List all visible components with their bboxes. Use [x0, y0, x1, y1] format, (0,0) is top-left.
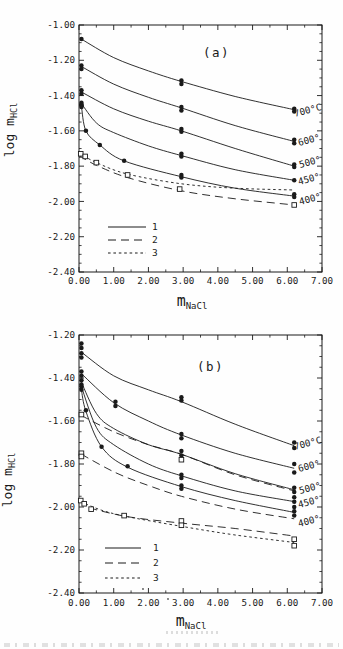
y-tick-label: -2.20 — [47, 544, 75, 555]
data-point — [292, 178, 297, 183]
open-square-point — [177, 187, 182, 192]
axis-frame — [79, 25, 322, 272]
y-tick-label: -1.20 — [47, 54, 75, 65]
legend-label: 2 — [153, 557, 159, 568]
y-tick-label: -2.40 — [47, 266, 75, 277]
x-tick-label: 4.00 — [207, 275, 229, 286]
open-square-point — [122, 513, 127, 518]
x-tick-label: 3.00 — [172, 275, 194, 286]
data-point — [179, 108, 184, 113]
data-point — [179, 476, 184, 481]
data-point — [179, 432, 184, 437]
y-tick-label: -1.20 — [47, 329, 75, 340]
open-square-point — [89, 507, 94, 512]
chart-b-plot: 0.001.002.003.004.005.006.007.00-1.20-1.… — [0, 320, 343, 649]
data-point — [79, 105, 84, 110]
data-point — [292, 141, 297, 146]
open-square-point — [179, 523, 184, 528]
data-point — [79, 346, 84, 351]
panel-label: (a) — [203, 45, 230, 60]
curve-label-700C: 700°C — [293, 101, 323, 119]
open-square-point — [292, 537, 297, 542]
data-point — [179, 129, 184, 134]
data-point — [292, 165, 297, 170]
legend-label: 2 — [152, 234, 158, 245]
y-tick-label: -2.00 — [47, 501, 75, 512]
x-tick-label: 2.00 — [137, 597, 159, 608]
data-point — [122, 159, 127, 164]
data-point — [113, 399, 118, 404]
data-point — [292, 462, 297, 467]
series-curve-600C — [81, 67, 294, 142]
y-axis-label: log mHCl — [0, 453, 17, 508]
x-tick-label: 2.00 — [137, 275, 159, 286]
data-point — [292, 505, 297, 510]
data-point — [125, 464, 130, 469]
y-tick-label: -1.00 — [47, 19, 75, 30]
data-point — [79, 92, 84, 97]
series-curve-400C — [81, 106, 294, 196]
y-tick-label: -2.40 — [47, 587, 75, 598]
data-point — [292, 195, 297, 200]
chart-panel-a: 0.001.002.003.004.005.006.007.00-1.00-1.… — [0, 0, 343, 320]
data-point — [79, 67, 84, 72]
series-curve-curve-2-upper — [81, 416, 294, 491]
x-tick-label: 7.00 — [311, 275, 333, 286]
y-tick-label: -1.60 — [47, 415, 75, 426]
data-point — [179, 398, 184, 403]
y-tick-label: -2.00 — [47, 196, 75, 207]
x-tick-label: 1.00 — [103, 597, 125, 608]
legend-label: 1 — [153, 542, 159, 553]
open-square-point — [78, 151, 83, 156]
data-point — [79, 355, 84, 360]
data-point — [292, 470, 297, 475]
series-curve-400C — [81, 390, 294, 513]
data-point — [79, 374, 84, 379]
curve-label-400C: 400° — [298, 191, 322, 207]
y-tick-label: -1.60 — [47, 125, 75, 136]
data-point — [179, 436, 184, 441]
data-point — [179, 175, 184, 180]
series-curve-curve-3 — [79, 153, 294, 190]
data-point — [84, 129, 89, 134]
open-square-point — [79, 412, 84, 417]
open-square-point — [83, 154, 88, 159]
data-point — [84, 408, 89, 413]
series-curve-curve-2-mid — [81, 454, 294, 519]
data-point — [79, 37, 84, 42]
y-tick-label: -2.20 — [47, 231, 75, 242]
x-tick-label: 5.00 — [242, 275, 264, 286]
series-curve-curve-2 — [79, 156, 294, 205]
y-tick-label: -1.40 — [47, 90, 75, 101]
x-tick-label: 6.00 — [276, 275, 298, 286]
data-point — [79, 351, 84, 356]
x-axis-label: mNaCl — [177, 292, 208, 311]
panel-label: (b) — [197, 359, 224, 374]
series-curve-600C — [81, 374, 294, 469]
open-square-point — [292, 543, 297, 548]
data-point — [179, 449, 184, 454]
data-point — [179, 154, 184, 159]
data-point — [113, 404, 118, 409]
curve-label-400C: 400° — [297, 513, 321, 529]
y-tick-label: -1.80 — [47, 458, 75, 469]
data-point — [98, 143, 103, 148]
open-square-point — [94, 160, 99, 165]
legend-label: 3 — [152, 247, 158, 258]
curve-label-500C: 500° — [298, 154, 322, 170]
data-point — [292, 499, 297, 504]
data-point — [292, 509, 297, 514]
data-point — [79, 369, 84, 374]
legend-label: 3 — [153, 572, 159, 583]
x-tick-label: 7.00 — [311, 597, 333, 608]
series-curve-curve-2-lower — [89, 508, 294, 536]
print-artifact-dot — [167, 598, 169, 600]
open-square-point — [292, 203, 297, 208]
curve-label-450C: 450° — [297, 171, 321, 187]
x-axis-label: mNaCl — [176, 612, 207, 631]
y-tick-label: -1.80 — [47, 160, 75, 171]
x-tick-label: 3.00 — [172, 597, 194, 608]
data-point — [292, 513, 297, 518]
curve-label-700C: 700°C — [293, 434, 323, 452]
data-point — [179, 82, 184, 87]
